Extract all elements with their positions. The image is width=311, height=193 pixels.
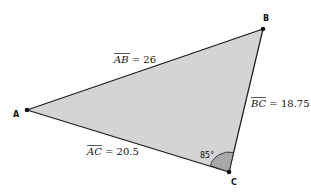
vertex-c-point: [227, 170, 232, 175]
vertex-a-label: A: [13, 110, 20, 119]
side-bc-value: = 18.75: [266, 98, 309, 109]
side-ab-measure: AB = 26: [113, 54, 156, 66]
side-ab-name: AB: [113, 54, 129, 65]
vertex-b-label: B: [263, 14, 269, 23]
vertex-c-label: C: [231, 178, 237, 187]
side-ac-name: AC: [86, 146, 102, 157]
side-ac-measure: AC = 20.5: [86, 146, 139, 158]
svg-text:AC = 20.5: AC = 20.5: [86, 146, 139, 157]
svg-text:AB = 26: AB = 26: [113, 54, 156, 65]
side-bc-measure: BC = 18.75: [250, 98, 310, 110]
triangle-diagram: A B C AB = 26 BC = 18.75 AC = 20.5 85°: [0, 0, 311, 193]
side-bc-name: BC: [250, 98, 267, 109]
triangle-abc: [27, 29, 263, 172]
svg-text:BC = 18.75: BC = 18.75: [250, 98, 310, 109]
vertex-a-point: [25, 108, 30, 113]
side-ac-value: = 20.5: [102, 146, 139, 157]
vertex-b-point: [261, 27, 266, 32]
side-ab-value: = 26: [129, 54, 156, 65]
angle-c-label: 85°: [200, 151, 214, 160]
